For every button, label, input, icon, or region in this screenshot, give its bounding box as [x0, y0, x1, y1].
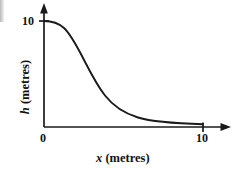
- x-axis-arrowhead: [221, 123, 232, 131]
- x-axis-tick-label-10: 10: [196, 132, 208, 144]
- y-axis-title-variable: h: [18, 107, 32, 114]
- x-axis-title: x (metres): [96, 152, 150, 165]
- x-axis-title-variable: x: [96, 151, 102, 165]
- y-axis-title: h (metres): [19, 60, 32, 114]
- y-axis-arrowhead: [40, 3, 48, 14]
- figure-canvas: 10 0 10 x (metres) h (metres): [0, 0, 245, 175]
- origin-tick-label: 0: [40, 132, 46, 144]
- plot-graphic: [0, 0, 245, 175]
- data-curve: [44, 21, 203, 124]
- y-axis-title-container: h (metres): [15, 39, 33, 135]
- x-axis-title-unit: (metres): [105, 151, 149, 165]
- y-axis-tick-label-10: 10: [22, 15, 34, 27]
- y-axis-title-unit: (metres): [18, 60, 32, 104]
